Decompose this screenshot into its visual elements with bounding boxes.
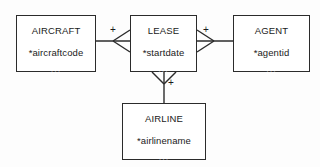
entity-aircraft[interactable]: AIRCRAFT *aircraftcode ...: [16, 15, 96, 72]
er-diagram-canvas: AIRCRAFT *aircraftcode ... LEASE *startd…: [0, 0, 320, 167]
entity-agent-attribute: *agentid: [254, 47, 290, 58]
entity-airline-name: AIRLINE: [145, 113, 183, 124]
cardinality-label-lease-agent: +: [203, 25, 209, 35]
entity-airline-ellipsis: ...: [159, 154, 170, 160]
entity-airline-attribute: *airlinename: [137, 135, 191, 146]
entity-lease-name: LEASE: [148, 25, 179, 36]
entity-aircraft-attribute: *aircraftcode: [29, 47, 84, 58]
entity-aircraft-ellipsis: ...: [51, 66, 62, 72]
entity-airline[interactable]: AIRLINE *airlinename ...: [122, 103, 206, 160]
cardinality-label-lease-airline: +: [168, 78, 174, 88]
cardinality-label-aircraft-lease: +: [110, 25, 116, 35]
entity-lease-attribute: *startdate: [143, 47, 185, 58]
entity-agent[interactable]: AGENT *agentid ...: [233, 15, 310, 72]
entity-aircraft-name: AIRCRAFT: [32, 25, 81, 36]
entity-lease-ellipsis: ...: [158, 66, 169, 72]
entity-agent-ellipsis: ...: [266, 66, 277, 72]
entity-agent-name: AGENT: [255, 25, 288, 36]
entity-lease[interactable]: LEASE *startdate ...: [130, 15, 197, 72]
